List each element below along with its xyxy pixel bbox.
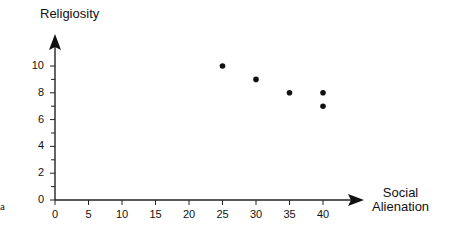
- y-tick-label: 4: [24, 139, 44, 151]
- x-tick-label: 30: [246, 208, 266, 220]
- scatter-plot: [0, 0, 449, 233]
- x-tick-label: 20: [179, 208, 199, 220]
- x-tick-label: 10: [112, 208, 132, 220]
- x-tick-label: 40: [313, 208, 333, 220]
- data-point: [320, 90, 326, 96]
- x-tick-label: 15: [146, 208, 166, 220]
- y-tick-label: 0: [24, 193, 44, 205]
- x-tick-label: 25: [213, 208, 233, 220]
- y-tick-label: 6: [24, 113, 44, 125]
- y-tick-label: 10: [24, 59, 44, 71]
- data-point: [253, 77, 259, 83]
- data-points: [220, 63, 326, 109]
- data-point: [287, 90, 293, 96]
- axes: [49, 34, 364, 206]
- data-point: [220, 63, 226, 69]
- x-tick-label: 0: [45, 208, 65, 220]
- y-tick-label: 8: [24, 86, 44, 98]
- x-tick-label: 35: [280, 208, 300, 220]
- data-point: [320, 103, 326, 109]
- x-tick-label: 5: [79, 208, 99, 220]
- y-tick-label: 2: [24, 166, 44, 178]
